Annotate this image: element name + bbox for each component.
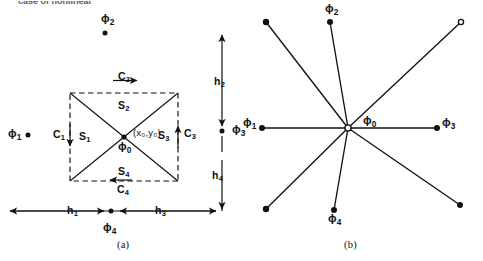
star-endpoint-left	[259, 125, 265, 131]
label-h4: h4	[212, 170, 223, 183]
spoke-up-right	[348, 22, 461, 128]
spoke-up	[330, 22, 348, 128]
label-c4: C4	[117, 184, 129, 197]
label-s3: S3	[158, 130, 169, 143]
label-phi1-panel-a: ϕ1	[8, 128, 21, 142]
star-center-node	[345, 125, 351, 131]
figure-container: case of nonlinear	[0, 0, 483, 261]
label-phi4-panel-a: ϕ4	[103, 222, 116, 236]
label-h2: h2	[214, 76, 225, 89]
label-center-coordinates: (x₀,y₀)	[133, 128, 161, 138]
label-phi4-panel-b: ϕ4	[328, 213, 341, 227]
star-endpoint-up-left	[263, 19, 269, 25]
star-endpoint-right	[434, 125, 440, 131]
label-phi2-panel-b: ϕ2	[325, 3, 338, 17]
label-phi0-panel-b: ϕ0	[363, 115, 376, 129]
label-c2: C2	[118, 71, 130, 84]
node-dot-phi1	[26, 133, 31, 138]
caption-panel-a: (a)	[117, 240, 129, 251]
star-endpoint-down-right	[457, 202, 463, 208]
star-endpoint-down-left	[263, 206, 269, 212]
label-s1: S1	[79, 131, 90, 144]
node-dot-phi2	[103, 31, 108, 36]
caption-panel-b: (b)	[344, 240, 357, 251]
spoke-down-right	[348, 128, 460, 205]
label-c1: C1	[53, 129, 65, 142]
star-endpoint-up	[327, 19, 333, 25]
label-phi1-panel-b: ϕ1	[243, 117, 256, 131]
label-s4: S4	[118, 166, 129, 179]
label-s2: S2	[118, 100, 129, 113]
node-dot-phi3	[220, 129, 225, 134]
center-node-dot	[121, 134, 126, 139]
label-h1: h1	[67, 205, 78, 218]
label-c3: C3	[184, 128, 196, 141]
label-phi2-panel-a: ϕ2	[101, 13, 114, 27]
label-phi3-panel-b: ϕ3	[442, 117, 455, 131]
label-phi0-panel-a: ϕ0	[118, 141, 131, 155]
spoke-up-left	[266, 22, 348, 128]
label-h3: h3	[155, 205, 166, 218]
horizontal-spacing-axis	[10, 205, 222, 211]
star-endpoint-up-right	[458, 19, 463, 24]
panel-b-group	[259, 19, 464, 213]
